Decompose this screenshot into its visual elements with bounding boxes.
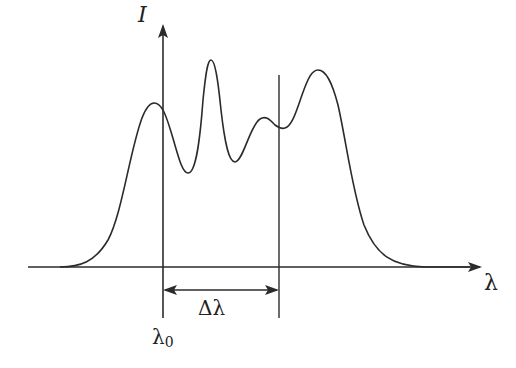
intensity-spectrum-diagram (0, 0, 516, 368)
delta-lambda-label: Δλ (198, 298, 225, 318)
lambda-zero-label: λ0 (152, 327, 174, 349)
x-axis-label: λ (484, 272, 498, 294)
intensity-curve (60, 60, 470, 267)
lambda-zero-base: λ (152, 325, 165, 349)
lambda-zero-subscript: 0 (165, 334, 174, 350)
y-axis-label: I (138, 4, 147, 26)
